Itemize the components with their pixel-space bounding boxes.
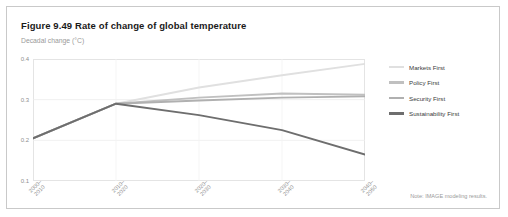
legend-item-label: Policy First bbox=[409, 79, 439, 86]
legend-item[interactable]: Security First bbox=[389, 94, 499, 102]
chart-plot-area: 0.40.30.20.1 2000–20102010–20202020–2030… bbox=[33, 59, 365, 181]
x-axis-tick-label: 2020–2030 bbox=[193, 178, 213, 198]
legend-color-swatch bbox=[389, 97, 404, 99]
legend-item[interactable]: Policy First bbox=[389, 79, 499, 87]
legend-item-label: Markets First bbox=[409, 64, 445, 71]
legend-color-swatch bbox=[389, 112, 404, 114]
chart-legend: Markets FirstPolicy FirstSecurity FirstS… bbox=[389, 63, 499, 125]
chart-lines bbox=[33, 59, 365, 181]
x-axis-tick-label: 2040–2050 bbox=[359, 178, 379, 198]
legend-color-swatch bbox=[389, 81, 404, 83]
figure-note: Note: IMAGE modeling results. bbox=[410, 193, 487, 199]
figure-title: Figure 9.49 Rate of change of global tem… bbox=[21, 20, 246, 31]
legend-item[interactable]: Markets First bbox=[389, 63, 499, 71]
figure-subtitle: Decadal change (°C) bbox=[21, 37, 84, 44]
legend-item[interactable]: Sustainability First bbox=[389, 110, 499, 118]
x-axis-tick-label: 2030–2040 bbox=[276, 178, 296, 198]
x-axis-tick-label: 2010–2020 bbox=[110, 178, 130, 198]
y-axis-tick-label: 0.1 bbox=[21, 178, 29, 184]
y-axis-tick-label: 0.3 bbox=[21, 97, 29, 103]
x-axis-tick-label: 2000–2010 bbox=[27, 178, 47, 198]
legend-item-label: Security First bbox=[409, 95, 445, 102]
y-axis-tick-label: 0.2 bbox=[21, 137, 29, 143]
legend-color-swatch bbox=[389, 66, 404, 68]
figure-card: Figure 9.49 Rate of change of global tem… bbox=[6, 6, 500, 209]
legend-item-label: Sustainability First bbox=[409, 110, 459, 117]
y-axis-tick-label: 0.4 bbox=[21, 56, 29, 62]
